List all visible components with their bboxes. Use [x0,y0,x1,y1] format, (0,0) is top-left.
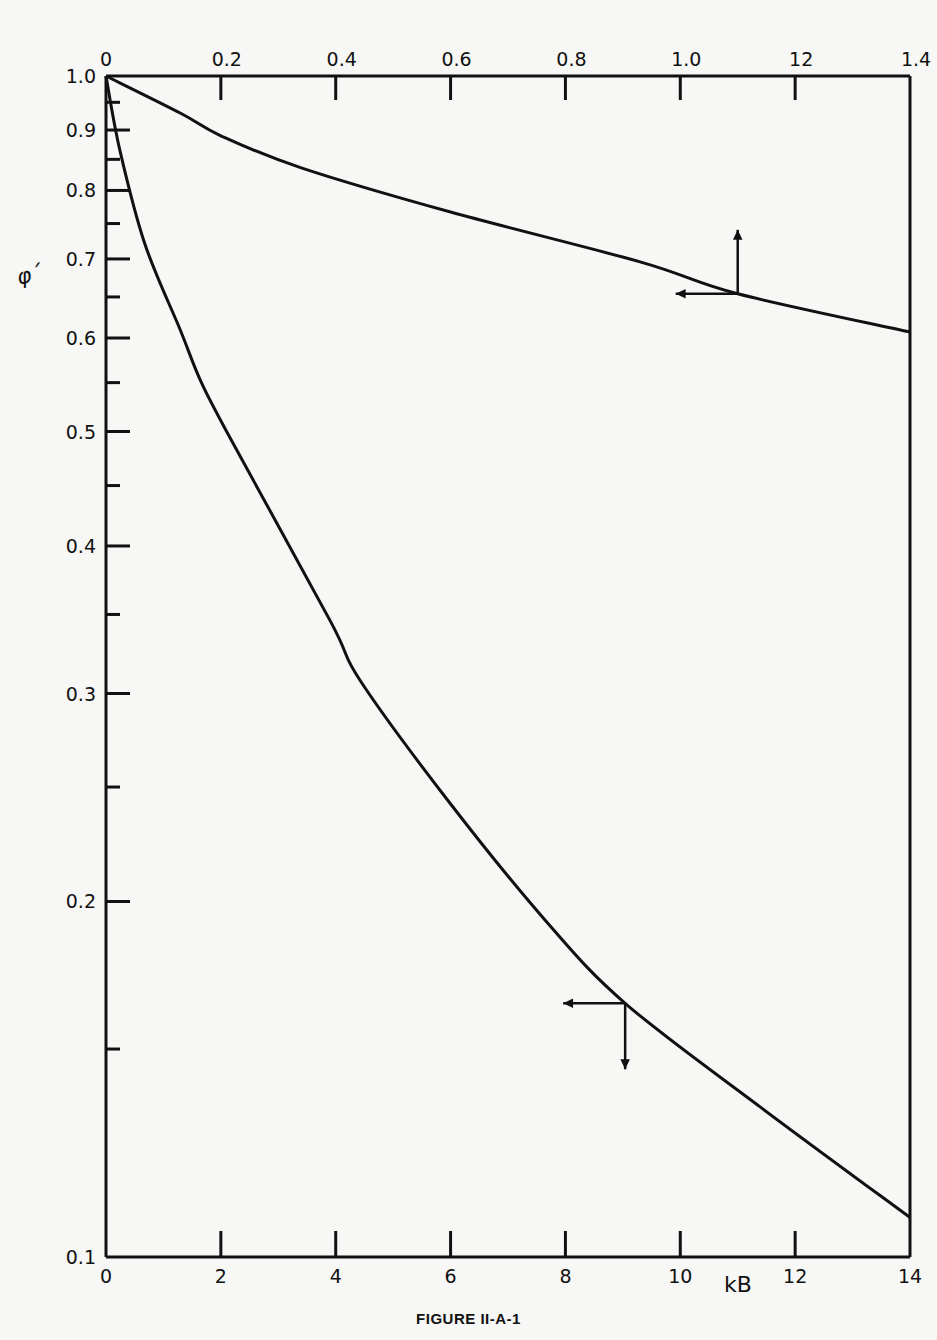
y-tick-label: 0.2 [66,890,96,912]
y-axis-title: φ´ [14,260,45,290]
figure-caption: FIGURE II-A-1 [0,1310,937,1327]
y-axis-ticks: 1.00.90.80.70.60.50.40.30.20.1 [66,65,130,1268]
x-bottom-tick-label: 14 [898,1265,922,1287]
y-tick-label: 0.8 [66,179,96,201]
x-axis-top-ticks: 00.20.40.60.81.0121.4 [100,48,931,100]
y-tick-label: 0.9 [66,119,96,141]
x-bottom-tick-label: 12 [783,1265,807,1287]
curves [106,76,910,1218]
y-tick-label: 0.7 [66,248,96,270]
x-top-tick-label: 0.8 [556,48,586,70]
x-top-tick-label: 0.4 [327,48,357,70]
y-tick-label: 1.0 [66,65,96,87]
x-top-tick-label: 0 [100,48,112,70]
lower-curve [106,76,910,1218]
x-top-tick-label: 0.2 [212,48,242,70]
x-top-tick-label: 12 [789,48,813,70]
x-bottom-tick-label: 8 [559,1265,571,1287]
y-tick-label: 0.5 [66,421,96,443]
y-tick-label: 0.6 [66,327,96,349]
x-top-tick-label: 1.4 [901,48,931,70]
upper-curve [106,76,910,332]
arrow-left-head [676,289,686,299]
arrow-up-head [733,230,743,240]
x-top-tick-label: 0.6 [441,48,471,70]
x-bottom-tick-label: 0 [100,1265,112,1287]
x-top-tick-label: 1.0 [671,48,701,70]
x-bottom-tick-label: 2 [215,1265,227,1287]
x-bottom-tick-label: 10 [668,1265,692,1287]
chart: 1.00.90.80.70.60.50.40.30.20.1 024681012… [0,0,937,1340]
x-axis-bottom-ticks: 02468101214 [100,1231,922,1287]
y-tick-label: 0.4 [66,535,96,557]
arrow-left-head [563,998,573,1008]
arrow-down-head [620,1059,630,1069]
x-bottom-tick-label: 6 [445,1265,457,1287]
x-axis-title: kB [724,1272,752,1297]
plot-frame [106,76,910,1257]
y-tick-label: 0.3 [66,683,96,705]
x-bottom-tick-label: 4 [330,1265,342,1287]
annotation-arrows [563,230,742,1069]
y-tick-label: 0.1 [66,1246,96,1268]
